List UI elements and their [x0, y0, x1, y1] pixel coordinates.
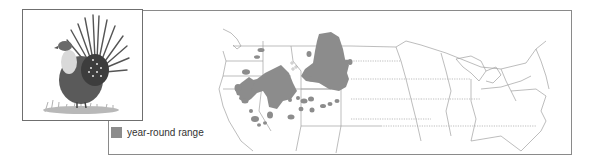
- legend-label-year-round: year-round range: [127, 127, 204, 138]
- legend-swatch-year-round: [111, 127, 122, 138]
- map-legend: year-round range: [111, 127, 204, 138]
- northern-border: [233, 41, 546, 69]
- sage-grouse-illustration: [23, 10, 142, 120]
- species-illustration-frame: [22, 9, 143, 121]
